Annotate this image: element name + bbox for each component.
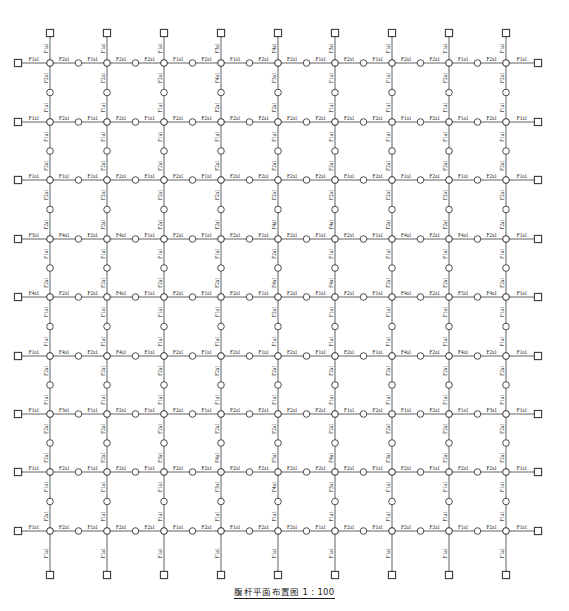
joint-node-circle[interactable] xyxy=(474,294,481,301)
joint-node-circle[interactable] xyxy=(303,119,310,126)
joint-node-circle[interactable] xyxy=(332,119,339,126)
joint-node-circle[interactable] xyxy=(389,498,396,505)
joint-node-circle[interactable] xyxy=(332,148,339,155)
joint-node-circle[interactable] xyxy=(161,382,168,389)
support-node-square[interactable] xyxy=(46,571,53,578)
joint-node-circle[interactable] xyxy=(246,528,253,535)
joint-node-circle[interactable] xyxy=(161,177,168,184)
joint-node-circle[interactable] xyxy=(246,119,253,126)
joint-node-circle[interactable] xyxy=(417,236,424,243)
joint-node-circle[interactable] xyxy=(246,353,253,360)
joint-node-circle[interactable] xyxy=(417,528,424,535)
joint-node-circle[interactable] xyxy=(47,469,54,476)
joint-node-circle[interactable] xyxy=(503,206,510,213)
joint-node-circle[interactable] xyxy=(446,498,453,505)
joint-node-circle[interactable] xyxy=(161,528,168,535)
joint-node-circle[interactable] xyxy=(389,528,396,535)
joint-node-circle[interactable] xyxy=(332,265,339,272)
joint-node-circle[interactable] xyxy=(161,60,168,67)
support-node-square[interactable] xyxy=(534,235,541,242)
joint-node-circle[interactable] xyxy=(503,294,510,301)
joint-node-circle[interactable] xyxy=(218,353,225,360)
joint-node-circle[interactable] xyxy=(503,236,510,243)
joint-node-circle[interactable] xyxy=(389,469,396,476)
joint-node-circle[interactable] xyxy=(132,177,139,184)
joint-node-circle[interactable] xyxy=(389,236,396,243)
support-node-square[interactable] xyxy=(14,176,21,183)
joint-node-circle[interactable] xyxy=(104,528,111,535)
joint-node-circle[interactable] xyxy=(275,236,282,243)
joint-node-circle[interactable] xyxy=(47,177,54,184)
joint-node-circle[interactable] xyxy=(47,382,54,389)
joint-node-circle[interactable] xyxy=(161,265,168,272)
joint-node-circle[interactable] xyxy=(275,498,282,505)
joint-node-circle[interactable] xyxy=(389,265,396,272)
support-node-square[interactable] xyxy=(46,29,53,36)
joint-node-circle[interactable] xyxy=(161,294,168,301)
support-node-square[interactable] xyxy=(534,118,541,125)
joint-node-circle[interactable] xyxy=(389,177,396,184)
joint-node-circle[interactable] xyxy=(104,148,111,155)
joint-node-circle[interactable] xyxy=(446,411,453,418)
joint-node-circle[interactable] xyxy=(389,119,396,126)
joint-node-circle[interactable] xyxy=(246,294,253,301)
joint-node-circle[interactable] xyxy=(446,236,453,243)
joint-node-circle[interactable] xyxy=(503,528,510,535)
joint-node-circle[interactable] xyxy=(474,469,481,476)
joint-node-circle[interactable] xyxy=(47,498,54,505)
joint-node-circle[interactable] xyxy=(275,265,282,272)
joint-node-circle[interactable] xyxy=(132,353,139,360)
joint-node-circle[interactable] xyxy=(161,236,168,243)
joint-node-circle[interactable] xyxy=(161,206,168,213)
joint-node-circle[interactable] xyxy=(75,119,82,126)
support-node-square[interactable] xyxy=(14,293,21,300)
joint-node-circle[interactable] xyxy=(275,528,282,535)
joint-node-circle[interactable] xyxy=(218,294,225,301)
joint-node-circle[interactable] xyxy=(47,294,54,301)
joint-node-circle[interactable] xyxy=(47,265,54,272)
joint-node-circle[interactable] xyxy=(47,148,54,155)
joint-node-circle[interactable] xyxy=(47,353,54,360)
joint-node-circle[interactable] xyxy=(75,294,82,301)
joint-node-circle[interactable] xyxy=(446,60,453,67)
support-node-square[interactable] xyxy=(14,527,21,534)
support-node-square[interactable] xyxy=(331,571,338,578)
joint-node-circle[interactable] xyxy=(275,60,282,67)
joint-node-circle[interactable] xyxy=(389,89,396,96)
joint-node-circle[interactable] xyxy=(132,469,139,476)
joint-node-circle[interactable] xyxy=(104,469,111,476)
joint-node-circle[interactable] xyxy=(47,528,54,535)
joint-node-circle[interactable] xyxy=(303,528,310,535)
joint-node-circle[interactable] xyxy=(132,236,139,243)
joint-node-circle[interactable] xyxy=(132,528,139,535)
joint-node-circle[interactable] xyxy=(47,236,54,243)
joint-node-circle[interactable] xyxy=(446,119,453,126)
joint-node-circle[interactable] xyxy=(104,177,111,184)
support-node-square[interactable] xyxy=(502,29,509,36)
joint-node-circle[interactable] xyxy=(161,411,168,418)
joint-node-circle[interactable] xyxy=(75,177,82,184)
joint-node-circle[interactable] xyxy=(389,353,396,360)
joint-node-circle[interactable] xyxy=(417,469,424,476)
joint-node-circle[interactable] xyxy=(104,294,111,301)
joint-node-circle[interactable] xyxy=(389,294,396,301)
joint-node-circle[interactable] xyxy=(389,440,396,447)
joint-node-circle[interactable] xyxy=(218,411,225,418)
joint-node-circle[interactable] xyxy=(446,294,453,301)
joint-node-circle[interactable] xyxy=(417,177,424,184)
joint-node-circle[interactable] xyxy=(503,89,510,96)
joint-node-circle[interactable] xyxy=(474,60,481,67)
joint-node-circle[interactable] xyxy=(503,498,510,505)
support-node-square[interactable] xyxy=(14,410,21,417)
support-node-square[interactable] xyxy=(14,468,21,475)
support-node-square[interactable] xyxy=(534,176,541,183)
joint-node-circle[interactable] xyxy=(275,148,282,155)
joint-node-circle[interactable] xyxy=(389,148,396,155)
joint-node-circle[interactable] xyxy=(47,206,54,213)
joint-node-circle[interactable] xyxy=(446,382,453,389)
joint-node-circle[interactable] xyxy=(303,294,310,301)
joint-node-circle[interactable] xyxy=(218,89,225,96)
joint-node-circle[interactable] xyxy=(218,528,225,535)
joint-node-circle[interactable] xyxy=(104,236,111,243)
support-node-square[interactable] xyxy=(103,29,110,36)
